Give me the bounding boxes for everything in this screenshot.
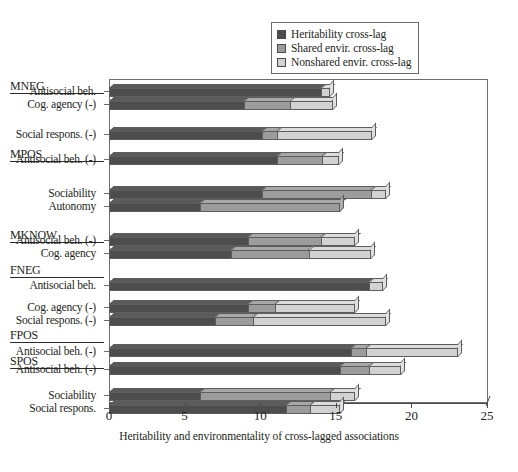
x-axis-tick-label: 25 [481,409,494,423]
bar-end-cap [401,358,405,375]
category-label: Antisocial beh. (-) [16,345,96,357]
bar-segment [322,156,339,165]
bar-end-cap [355,296,359,313]
legend-swatch-icon [277,58,286,67]
legend-item: Nonshared envir. cross-lag [277,55,411,69]
bar-segment-top-face [109,199,205,203]
bar-row [109,97,339,110]
bar-row [109,246,377,259]
legend-item: Heritability cross-lag [277,27,411,41]
bar-segment [109,237,248,246]
bar-end-cap [333,93,337,110]
x-axis-tick-label: 5 [181,409,188,423]
legend-item: Shared envir. cross-lag [277,41,411,55]
bar-segment [290,101,332,110]
category-label: Antisocial beh. (-) [16,153,96,165]
chart-figure: Heritability cross-lagShared envir. cros… [0,0,518,472]
bar-segment [109,190,262,199]
bar-segment-top-face [109,152,282,156]
category-label: Social respons. [29,402,96,414]
bar-segment-top-face [109,344,356,348]
bar-row [109,152,345,165]
category-group-heading: FPOS [10,329,104,343]
bar-segment [262,190,371,199]
bar-row [109,233,361,246]
bar-segment [200,392,330,401]
bar-segment [109,131,262,140]
bar-segment-top-face [290,97,337,101]
legend-label: Nonshared envir. cross-lag [291,56,411,69]
legend-label: Shared envir. cross-lag [291,42,394,55]
bar-segment-top-face [248,233,326,237]
bar-segment [262,131,277,140]
bar-row [109,300,361,313]
bar-segment [277,156,322,165]
bar-row [109,388,361,401]
bar-segment [109,88,321,97]
bar-row [109,344,464,357]
bar-segment [109,366,340,375]
bar-end-cap [386,182,390,199]
x-axis-tick-label: 10 [254,409,267,423]
bar-end-cap [355,229,359,246]
bar-segment [277,131,372,140]
bar-row [109,186,392,199]
bar-segment-top-face [262,186,376,190]
bar-end-cap [330,80,334,97]
bar-segment [340,366,369,375]
bar-segment-top-face [200,388,335,392]
bar-segment [109,203,200,212]
bar-row [109,401,346,414]
x-axis-tick-label: 0 [106,409,113,423]
bar-row [109,278,389,291]
legend-swatch-icon [277,30,286,39]
bar-segment-top-face [109,233,253,237]
bar-segment-top-face [309,246,376,250]
bar-end-cap [340,195,344,212]
bar-segment [321,237,356,246]
bar-segment [248,304,275,313]
category-label: Antisocial beh. (-) [16,234,96,246]
bar-segment [231,250,308,259]
bar-segment-top-face [277,152,327,156]
bar-segment [109,156,277,165]
bar-segment-top-face [109,84,326,88]
bar-segment [351,348,366,357]
bar-segment [321,88,330,97]
bar-segment-top-face [200,199,346,203]
bar-segment-top-face [109,278,374,282]
bar-segment [200,203,341,212]
bar-segment-top-face [109,246,237,250]
bar-segment [369,282,383,291]
category-label: Antisocial beh. [29,85,96,97]
category-label: Cog. agency (-) [27,301,96,313]
bar-segment [109,250,231,259]
bar-segment [244,101,291,110]
bar-segment-top-face [109,313,220,317]
bar-segment [275,304,355,313]
bar-row [109,313,392,326]
category-label: Sociability [48,187,96,199]
bar-segment-top-face [109,401,291,405]
legend-swatch-icon [277,44,286,53]
bar-row [109,127,378,140]
bar-segment [109,304,248,313]
bar-segment [215,317,253,326]
bar-segment-top-face [109,388,205,392]
bar-segment-top-face [109,362,345,366]
bar-segment-top-face [253,313,391,317]
bar-segment-top-face [277,127,377,131]
bar-row [109,84,336,97]
bar-segment [248,237,321,246]
bar-end-cap [355,384,359,401]
bar-segment [253,317,386,326]
bar-segment [109,392,200,401]
bar-segment [369,366,401,375]
bar-segment-top-face [215,313,258,317]
x-axis-title: Heritability and environmentality of cro… [0,430,518,442]
bar-segment-top-face [275,300,360,304]
bar-segment [371,190,386,199]
category-label: Antisocial beh. (-) [16,363,96,375]
category-label: Sociability [48,389,96,401]
bar-row [109,199,346,212]
